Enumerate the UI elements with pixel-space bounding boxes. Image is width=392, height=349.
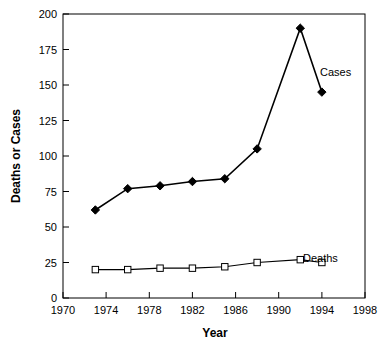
y-tick-label: 200	[39, 8, 57, 20]
line-chart: 0 25 50 75 100 125 150 175 200 1970 1974…	[0, 0, 392, 349]
chart-container: 0 25 50 75 100 125 150 175 200 1970 1974…	[0, 0, 392, 349]
x-tick-label: 1990	[266, 304, 290, 316]
x-axis-title: Year	[202, 326, 228, 340]
y-tick-label: 175	[39, 44, 57, 56]
data-point	[156, 182, 164, 190]
series-markers-deaths	[92, 256, 325, 272]
y-tick-labels: 0 25 50 75 100 125 150 175 200	[39, 8, 57, 304]
data-point	[189, 265, 195, 271]
series-line-cases	[95, 28, 321, 210]
series-annotation-cases: Cases	[320, 66, 352, 78]
x-tick-label: 1994	[310, 304, 334, 316]
data-point	[157, 265, 163, 271]
y-tick-label: 25	[45, 257, 57, 269]
data-point	[318, 88, 326, 96]
x-tick-label: 1974	[94, 304, 118, 316]
x-tick-labels: 1970 1974 1978 1982 1986 1990 1994 1998	[51, 304, 377, 316]
y-tick-label: 150	[39, 79, 57, 91]
x-tick-label: 1986	[223, 304, 247, 316]
data-point	[296, 24, 304, 32]
y-axis-ticks	[63, 14, 69, 298]
data-point	[92, 266, 98, 272]
x-tick-label: 1970	[51, 304, 75, 316]
y-tick-label: 0	[51, 292, 57, 304]
y-tick-label: 75	[45, 186, 57, 198]
y-axis-title: Deaths or Cases	[9, 109, 23, 203]
x-tick-label: 1998	[353, 304, 377, 316]
y-tick-label: 50	[45, 221, 57, 233]
x-tick-label: 1982	[180, 304, 204, 316]
data-point	[91, 206, 99, 214]
data-point	[254, 259, 260, 265]
data-point	[188, 177, 196, 185]
y-tick-label: 100	[39, 150, 57, 162]
x-tick-label: 1978	[137, 304, 161, 316]
data-point	[124, 184, 132, 192]
data-point	[222, 264, 228, 270]
data-point	[125, 266, 131, 272]
y-tick-label: 125	[39, 115, 57, 127]
x-axis-ticks	[63, 292, 365, 298]
series-annotation-deaths: Deaths	[303, 252, 338, 264]
